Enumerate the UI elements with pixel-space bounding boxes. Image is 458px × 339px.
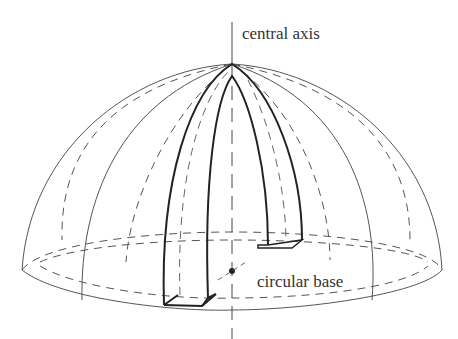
central-axis-label: central axis: [242, 24, 320, 44]
center-point: [229, 268, 235, 274]
dome-diagram: [0, 0, 458, 339]
circular-base-label: circular base: [257, 272, 343, 292]
